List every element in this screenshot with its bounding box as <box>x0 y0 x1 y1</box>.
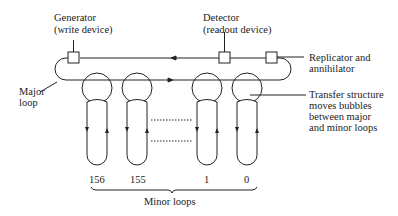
major-loop-arrow-bottom <box>168 78 173 82</box>
bubble-memory-diagram: Generator (write device) Detector (reado… <box>0 0 398 216</box>
minor-loop-number-1: 1 <box>204 174 209 185</box>
minor-loop-number-155: 155 <box>130 174 146 185</box>
transfer-label-3: between major <box>309 111 371 122</box>
transfer-circle-156 <box>82 73 112 103</box>
minor-loop-number-0: 0 <box>244 174 249 185</box>
detector-box <box>219 52 230 63</box>
major-loop <box>55 58 291 80</box>
minor-loop-1 <box>197 100 217 166</box>
transfer-circle-1 <box>192 73 222 103</box>
minor-loops-brace <box>91 187 257 193</box>
generator-label-1: Generator <box>54 12 96 23</box>
major-loop-label-1: Major <box>19 86 45 97</box>
generator-label-2: (write device) <box>54 24 113 35</box>
transfer-label-1: Transfer structure <box>309 89 384 100</box>
replicator-label-2: annihilator <box>309 63 355 74</box>
major-loop-label-2: loop <box>19 97 38 108</box>
generator-box <box>68 52 79 63</box>
minor-loop-155 <box>127 100 147 166</box>
replicator-label-1: Replicator and <box>309 52 371 63</box>
major-loop-arrow-top <box>171 56 176 60</box>
minor-loop-0 <box>237 100 257 166</box>
replicator-box <box>266 52 277 63</box>
minor-loop-156 <box>87 100 107 166</box>
transfer-circle-155 <box>122 73 152 103</box>
detector-label-2: (readout device) <box>203 24 272 35</box>
transfer-label-4: and minor loops <box>309 122 377 133</box>
detector-label-1: Detector <box>203 12 239 23</box>
minor-loop-number-156: 156 <box>89 174 105 185</box>
minor-loops-label: Minor loops <box>144 196 196 207</box>
transfer-label-2: moves bubbles <box>309 100 372 111</box>
transfer-circle-0 <box>232 73 262 103</box>
